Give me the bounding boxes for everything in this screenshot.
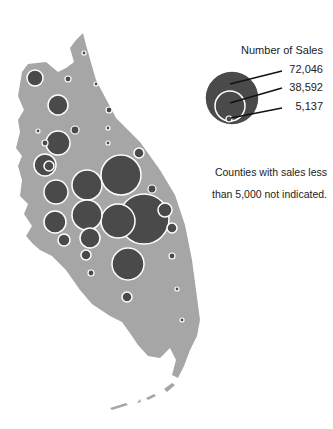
legend-symbol bbox=[205, 71, 282, 125]
county-sales-bubble bbox=[81, 250, 91, 260]
county-sales-bubble bbox=[134, 148, 144, 158]
legend-value-small: 5,137 bbox=[295, 100, 323, 112]
county-sales-bubble bbox=[46, 131, 70, 155]
county-sales-bubble bbox=[101, 155, 141, 195]
county-sales-bubble bbox=[148, 185, 156, 193]
county-sales-bubble bbox=[80, 228, 100, 248]
county-sales-bubble bbox=[27, 70, 43, 86]
legend-note: Counties with sales less than 5,000 not … bbox=[197, 161, 327, 205]
florida-land-shape bbox=[16, 33, 200, 378]
legend-title: Number of Sales bbox=[241, 44, 323, 56]
florida-keys bbox=[110, 383, 175, 410]
county-sales-bubble bbox=[101, 204, 135, 238]
county-sales-bubble bbox=[48, 95, 68, 115]
county-sales-bubble bbox=[122, 292, 132, 302]
county-sales-bubble bbox=[88, 270, 94, 276]
county-sales-bubble bbox=[58, 234, 70, 246]
county-sales-bubble bbox=[71, 126, 79, 134]
county-sales-bubble bbox=[167, 223, 177, 233]
legend-value-large: 72,046 bbox=[289, 63, 323, 75]
florida-sales-map bbox=[0, 0, 333, 429]
county-sales-bubble bbox=[106, 126, 110, 130]
county-sales-bubble bbox=[175, 287, 179, 291]
county-sales-bubble bbox=[65, 76, 71, 82]
legend-note-line-2: than 5,000 not indicated. bbox=[197, 183, 327, 205]
county-sales-bubble bbox=[44, 180, 68, 204]
county-sales-bubble bbox=[42, 140, 48, 146]
county-sales-bubble bbox=[82, 51, 86, 55]
county-sales-bubble bbox=[94, 82, 98, 86]
county-sales-bubble bbox=[44, 161, 54, 171]
county-sales-bubble bbox=[112, 248, 144, 280]
county-sales-bubble bbox=[72, 200, 102, 230]
county-sales-bubble bbox=[180, 318, 184, 322]
county-sales-bubble bbox=[44, 211, 66, 233]
legend-note-line-1: Counties with sales less bbox=[197, 161, 327, 183]
county-sales-bubble bbox=[106, 141, 110, 145]
county-sales-bubble bbox=[169, 253, 175, 259]
county-sales-bubble bbox=[72, 170, 102, 200]
legend-value-medium: 38,592 bbox=[289, 81, 323, 93]
county-sales-bubble bbox=[36, 129, 40, 133]
county-sales-bubble bbox=[106, 107, 112, 113]
county-sales-bubble bbox=[158, 203, 172, 217]
